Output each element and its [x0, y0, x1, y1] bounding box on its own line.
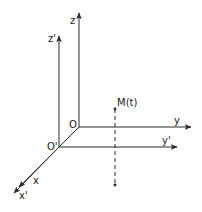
m-point-dot	[114, 108, 117, 111]
x-axis-label: x	[33, 175, 39, 186]
origin-o-label: O	[69, 119, 77, 130]
x-prime-axis-label: x'	[19, 190, 28, 201]
z-prime-axis-label: z'	[48, 33, 56, 44]
z-axis-label: z	[70, 15, 75, 26]
point-m: M(t)	[114, 97, 138, 186]
origin-o-prime-label: O'	[47, 141, 58, 152]
m-point-label: M(t)	[117, 97, 137, 108]
reference-frames-diagram: z y x O z' y' x' O' M(t)	[0, 0, 202, 212]
x-prime-axis	[14, 147, 59, 193]
m-foot-dot	[114, 184, 117, 187]
y-axis-label: y	[174, 115, 180, 126]
y-prime-axis-label: y'	[162, 135, 171, 146]
